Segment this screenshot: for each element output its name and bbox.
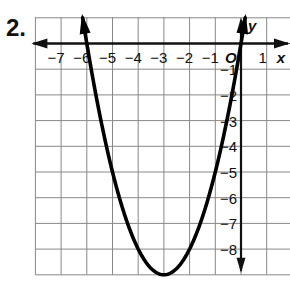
x-axis-left-arrow-icon xyxy=(31,39,47,49)
x-tick-label: −7 xyxy=(48,49,65,66)
origin-label: O xyxy=(225,49,237,66)
x-axis-label: x xyxy=(276,49,286,66)
graph-area: −7−6−5−4−3−2−11−1−2−3−4−5−6−7−8xyO xyxy=(0,0,290,307)
x-tick-label: −5 xyxy=(99,49,116,66)
x-tick-label: −1 xyxy=(202,49,219,66)
y-tick-label: −7 xyxy=(220,215,237,232)
y-tick-label: −5 xyxy=(220,164,237,181)
x-tick-label: −2 xyxy=(176,49,193,66)
x-tick-label: 1 xyxy=(259,49,267,66)
y-axis-label: y xyxy=(247,17,257,34)
y-axis-down-arrow-icon xyxy=(237,258,246,273)
y-tick-label: −8 xyxy=(220,241,237,258)
y-tick-label: −6 xyxy=(220,190,237,207)
tick-labels: −7−6−5−4−3−2−11−1−2−3−4−5−6−7−8xyO xyxy=(48,17,286,258)
x-tick-label: −4 xyxy=(125,49,142,66)
x-axis-right-arrow-icon xyxy=(274,39,290,49)
x-tick-label: −3 xyxy=(150,49,167,66)
